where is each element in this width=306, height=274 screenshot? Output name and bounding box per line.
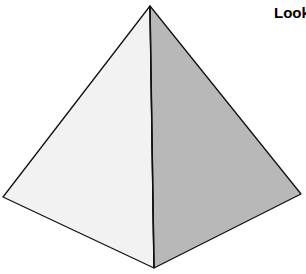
pyramid-figure — [0, 0, 306, 274]
pyramid-right-face — [150, 6, 301, 268]
pyramid-left-face — [3, 6, 154, 268]
title-fragment: Look — [274, 4, 306, 21]
diagram-canvas: Look — [0, 0, 306, 274]
